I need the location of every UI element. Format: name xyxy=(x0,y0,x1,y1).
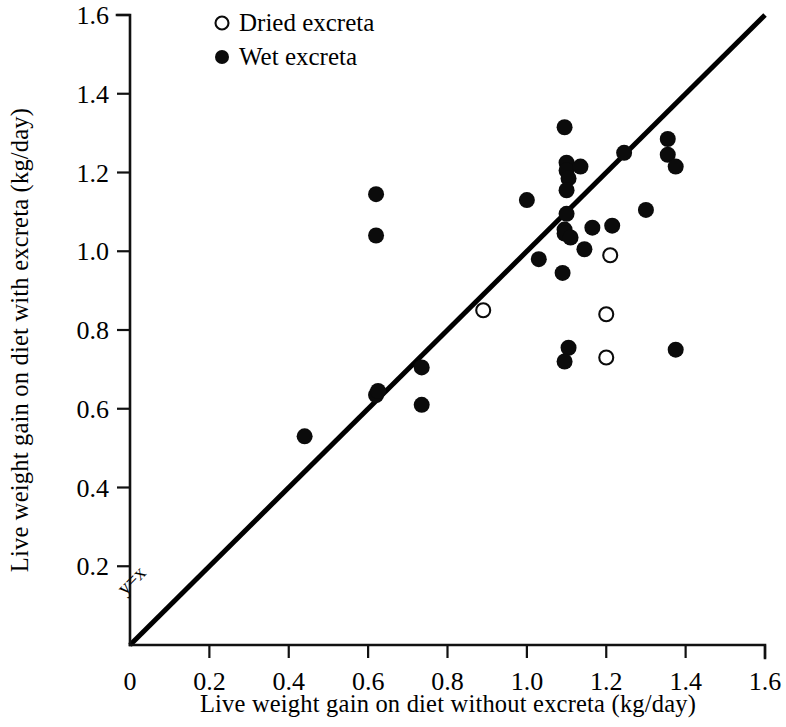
data-point-wet-excreta xyxy=(555,265,571,281)
data-point-wet-excreta xyxy=(576,241,592,257)
x-tick-label: 0 xyxy=(124,667,137,696)
plot-svg: 00.20.40.60.81.01.21.41.6 0.20.40.60.81.… xyxy=(0,0,786,727)
legend-label-wet-excreta: Wet excreta xyxy=(239,43,357,70)
data-point-dried-excreta xyxy=(599,351,613,365)
y-tick-label: 0.2 xyxy=(77,552,110,581)
x-axis-ticks xyxy=(209,645,765,658)
data-point-wet-excreta xyxy=(414,397,430,413)
data-point-dried-excreta xyxy=(599,307,613,321)
data-point-wet-excreta xyxy=(557,119,573,135)
data-point-wet-excreta xyxy=(604,218,620,234)
y-axis-ticks xyxy=(117,15,130,566)
legend-marker-filled-circle-icon xyxy=(215,50,229,64)
data-point-wet-excreta xyxy=(559,206,575,222)
series-dried-excreta-points xyxy=(476,248,617,364)
data-point-wet-excreta xyxy=(557,354,573,370)
data-point-wet-excreta xyxy=(297,428,313,444)
identity-reference-line-group xyxy=(130,15,765,645)
y-tick-label: 0.4 xyxy=(77,474,110,503)
y-axis-title-group: Live weight gain on diet with excreta (k… xyxy=(6,108,34,572)
x-tick-label: 1.6 xyxy=(749,667,782,696)
data-point-wet-excreta xyxy=(616,145,632,161)
scatter-plot-figure: 00.20.40.60.81.01.21.41.6 0.20.40.60.81.… xyxy=(0,0,786,727)
legend-marker-open-circle-icon xyxy=(216,17,229,30)
data-point-wet-excreta xyxy=(561,340,577,356)
y-tick-label: 1.6 xyxy=(77,1,110,30)
data-point-wet-excreta xyxy=(668,159,684,175)
data-point-wet-excreta xyxy=(668,342,684,358)
data-point-wet-excreta xyxy=(563,229,579,245)
data-point-wet-excreta xyxy=(584,220,600,236)
data-point-wet-excreta xyxy=(638,202,654,218)
y-tick-label: 0.6 xyxy=(77,395,110,424)
data-point-wet-excreta xyxy=(368,186,384,202)
data-point-wet-excreta xyxy=(368,228,384,244)
data-point-dried-excreta xyxy=(476,303,490,317)
data-point-wet-excreta xyxy=(519,192,535,208)
x-axis-title: Live weight gain on diet without excreta… xyxy=(200,690,696,718)
data-point-wet-excreta xyxy=(370,383,386,399)
y-tick-label: 0.8 xyxy=(77,316,110,345)
series-wet-excreta-points xyxy=(297,119,684,444)
data-point-wet-excreta xyxy=(660,131,676,147)
data-point-wet-excreta xyxy=(414,359,430,375)
data-point-wet-excreta xyxy=(572,159,588,175)
data-point-wet-excreta xyxy=(531,251,547,267)
legend: Dried excreta Wet excreta xyxy=(215,9,374,70)
data-point-wet-excreta xyxy=(559,182,575,198)
y-tick-label: 1.2 xyxy=(77,159,110,188)
legend-label-dried-excreta: Dried excreta xyxy=(239,9,374,36)
data-point-dried-excreta xyxy=(603,248,617,262)
identity-line xyxy=(130,15,765,645)
y-axis-title: Live weight gain on diet with excreta (k… xyxy=(6,108,34,572)
y-tick-label: 1.4 xyxy=(77,80,110,109)
y-tick-label: 1.0 xyxy=(77,237,110,266)
y-axis-tick-labels: 0.20.40.60.81.01.21.41.6 xyxy=(77,1,110,581)
